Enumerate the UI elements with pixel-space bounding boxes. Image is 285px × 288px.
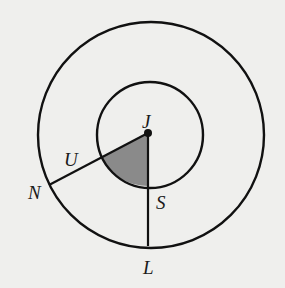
shaded-sector-UJS [102,133,149,186]
diagram-canvas: J U N S L [0,0,285,288]
label-S: S [156,192,166,213]
concentric-circles-diagram: J U N S L [0,0,285,288]
label-N: N [27,182,42,203]
label-J: J [142,111,152,132]
label-U: U [64,149,79,170]
label-L: L [142,257,154,278]
